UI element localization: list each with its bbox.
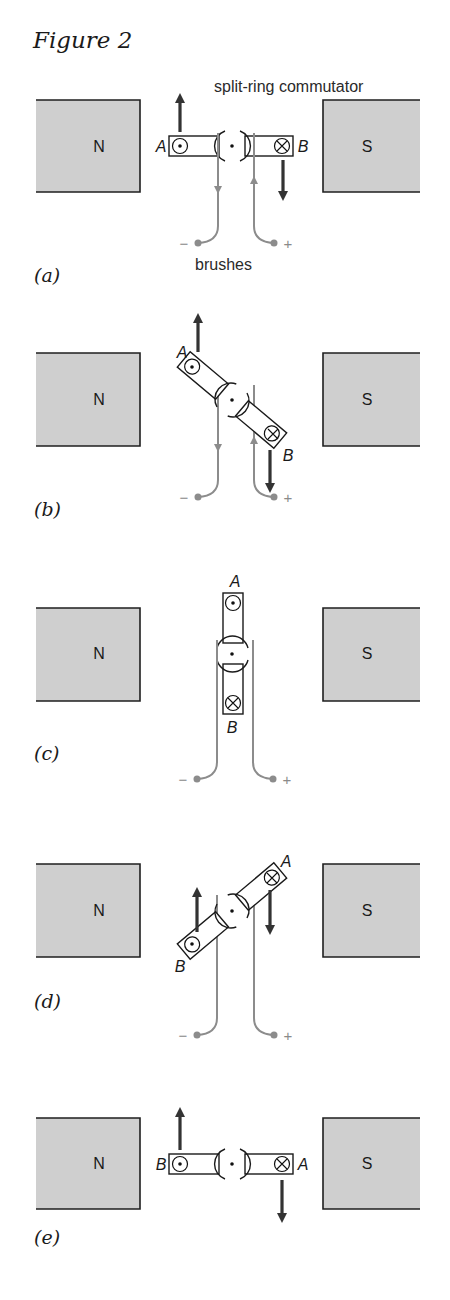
negative-terminal: − <box>179 771 188 788</box>
coil: A B <box>155 131 309 161</box>
coil: B A <box>156 1149 309 1179</box>
axle-dot-icon <box>230 909 234 913</box>
panel-c: N S A B <box>34 573 420 788</box>
side-a-label: A <box>176 344 188 361</box>
side-b-label: B <box>156 1156 167 1173</box>
current-in-icon <box>275 139 290 154</box>
panel-label: (a) <box>34 264 60 286</box>
positive-terminal: + <box>284 235 293 252</box>
side-b-label: B <box>283 447 294 464</box>
south-magnet: S <box>323 353 420 446</box>
panel-label: (d) <box>34 990 61 1012</box>
current-in-icon <box>275 1157 290 1172</box>
side-b-label: B <box>298 138 309 155</box>
south-magnet: S <box>323 864 420 957</box>
south-magnet: S <box>323 1118 420 1209</box>
panel-d: N S − + B A (d) <box>34 853 420 1044</box>
side-a-label: A <box>229 573 241 590</box>
side-b-label: B <box>227 719 238 736</box>
north-pole-label: N <box>93 902 105 919</box>
coil: A B <box>217 573 248 736</box>
south-pole-label: S <box>362 391 373 408</box>
south-pole-label: S <box>362 1155 373 1172</box>
brushes-annotation: brushes <box>195 256 252 273</box>
positive-terminal: + <box>284 1027 293 1044</box>
axle-dot-icon <box>230 398 234 402</box>
negative-terminal: − <box>180 235 189 252</box>
north-pole-label: N <box>93 138 105 155</box>
north-magnet: N <box>36 608 140 701</box>
figure-2-dc-motor-diagram: Figure 2 N S split-ring commutator <box>0 0 450 1300</box>
north-magnet: N <box>36 100 140 192</box>
panel-label: (b) <box>34 498 61 520</box>
panel-label: (e) <box>34 1226 60 1248</box>
axle-dot-icon <box>230 144 234 148</box>
north-pole-label: N <box>93 1155 105 1172</box>
north-magnet: N <box>36 864 140 957</box>
negative-terminal: − <box>179 1027 188 1044</box>
north-pole-label: N <box>93 391 105 408</box>
side-a-label: A <box>297 1156 309 1173</box>
commutator-annotation: split-ring commutator <box>214 78 364 95</box>
side-a-label: A <box>155 138 167 155</box>
panel-b: N S − + <box>34 318 420 520</box>
panel-label: (c) <box>34 742 59 764</box>
figure-title: Figure 2 <box>32 27 132 53</box>
south-pole-label: S <box>362 902 373 919</box>
current-out-icon <box>173 1157 188 1172</box>
panel-a: N S split-ring commutator A B <box>34 78 420 286</box>
axle-dot-icon <box>230 652 234 656</box>
positive-terminal: + <box>284 489 293 506</box>
north-magnet: N <box>36 353 140 446</box>
panel-e: N S B A (e) <box>34 1112 420 1248</box>
south-pole-label: S <box>362 645 373 662</box>
south-pole-label: S <box>362 138 373 155</box>
north-pole-label: N <box>93 645 105 662</box>
current-out-icon <box>173 139 188 154</box>
north-magnet: N <box>36 1118 140 1209</box>
axle-dot-icon <box>230 1162 234 1166</box>
side-a-label: A <box>280 853 292 870</box>
current-out-icon <box>226 596 241 611</box>
current-in-icon <box>226 696 241 711</box>
negative-terminal: − <box>180 489 189 506</box>
side-b-label: B <box>175 958 186 975</box>
positive-terminal: + <box>283 771 292 788</box>
south-magnet: S <box>323 100 420 192</box>
south-magnet: S <box>323 608 420 701</box>
